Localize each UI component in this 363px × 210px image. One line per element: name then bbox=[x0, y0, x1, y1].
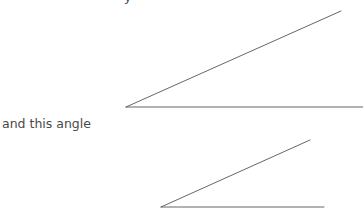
first-angle-upper-ray bbox=[126, 11, 341, 107]
second-angle-upper-ray bbox=[161, 140, 310, 207]
second-angle bbox=[161, 140, 324, 207]
first-angle bbox=[126, 11, 363, 107]
caption-text: and this angle bbox=[2, 116, 91, 131]
angles-diagram bbox=[0, 0, 363, 210]
